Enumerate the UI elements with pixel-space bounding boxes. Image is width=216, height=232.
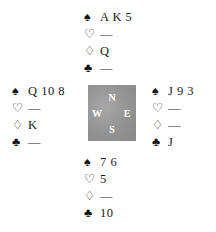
hand-north-clubs: — <box>97 60 113 77</box>
hand-north-hearts: — <box>97 26 113 43</box>
diamond-icon: ♢ <box>152 117 165 134</box>
compass-label-north: N <box>106 93 118 103</box>
hand-west-diamonds-row: ♢ K <box>12 117 65 134</box>
hand-south-spades: 7 6 <box>97 154 117 171</box>
hand-west-spades-row: ♠ Q 10 8 <box>12 83 65 100</box>
bridge-hand-diagram: ♠ A K 5 ♡ — ♢ Q ♣ — ♠ Q 10 8 ♡ — ♢ K <box>0 0 216 232</box>
hand-east-clubs-row: ♣ J <box>152 134 194 151</box>
hand-west-clubs: — <box>25 134 41 151</box>
compass-box: N W E S <box>88 85 136 141</box>
diamond-icon: ♢ <box>84 188 97 205</box>
compass-label-south: S <box>106 125 118 135</box>
heart-icon: ♡ <box>12 100 25 117</box>
hand-north-spades-row: ♠ A K 5 <box>84 9 132 26</box>
hand-east-diamonds: — <box>165 117 181 134</box>
diamond-icon: ♢ <box>84 43 97 60</box>
hand-east: ♠ J 9 3 ♡ — ♢ — ♣ J <box>152 83 194 151</box>
hand-south: ♠ 7 6 ♡ 5 ♢ — ♣ 10 <box>84 154 117 222</box>
club-icon: ♣ <box>84 205 97 222</box>
compass-label-west: W <box>91 109 103 119</box>
hand-north-spades: A K 5 <box>97 9 132 26</box>
hand-south-hearts: 5 <box>97 171 107 188</box>
hand-north-diamonds: Q <box>97 43 110 60</box>
hand-east-spades-row: ♠ J 9 3 <box>152 83 194 100</box>
spade-icon: ♠ <box>12 83 25 100</box>
hand-west-spades: Q 10 8 <box>25 83 65 100</box>
hand-north: ♠ A K 5 ♡ — ♢ Q ♣ — <box>84 9 132 77</box>
hand-west-hearts-row: ♡ — <box>12 100 65 117</box>
diamond-icon: ♢ <box>12 117 25 134</box>
club-icon: ♣ <box>152 134 165 151</box>
spade-icon: ♠ <box>84 9 97 26</box>
hand-south-clubs-row: ♣ 10 <box>84 205 117 222</box>
hand-east-clubs: J <box>165 134 173 151</box>
hand-east-hearts: — <box>165 100 181 117</box>
hand-west: ♠ Q 10 8 ♡ — ♢ K ♣ — <box>12 83 65 151</box>
heart-icon: ♡ <box>84 171 97 188</box>
hand-east-spades: J 9 3 <box>165 83 194 100</box>
hand-south-hearts-row: ♡ 5 <box>84 171 117 188</box>
spade-icon: ♠ <box>84 154 97 171</box>
hand-west-clubs-row: ♣ — <box>12 134 65 151</box>
hand-west-hearts: — <box>25 100 41 117</box>
hand-west-diamonds: K <box>25 117 38 134</box>
hand-east-diamonds-row: ♢ — <box>152 117 194 134</box>
hand-south-spades-row: ♠ 7 6 <box>84 154 117 171</box>
hand-north-diamonds-row: ♢ Q <box>84 43 132 60</box>
heart-icon: ♡ <box>152 100 165 117</box>
hand-south-diamonds: — <box>97 188 113 205</box>
compass-label-east: E <box>121 109 133 119</box>
club-icon: ♣ <box>12 134 25 151</box>
spade-icon: ♠ <box>152 83 165 100</box>
hand-east-hearts-row: ♡ — <box>152 100 194 117</box>
hand-north-clubs-row: ♣ — <box>84 60 132 77</box>
hand-south-clubs: 10 <box>97 205 114 222</box>
hand-north-hearts-row: ♡ — <box>84 26 132 43</box>
club-icon: ♣ <box>84 60 97 77</box>
heart-icon: ♡ <box>84 26 97 43</box>
hand-south-diamonds-row: ♢ — <box>84 188 117 205</box>
